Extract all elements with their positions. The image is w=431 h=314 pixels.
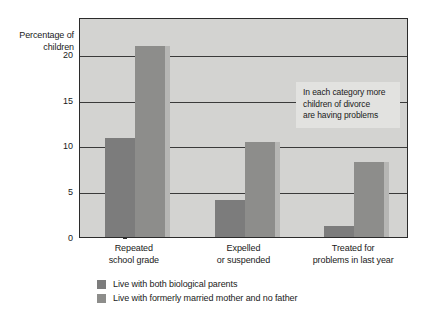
legend: Live with both biological parents Live w… <box>97 277 397 305</box>
legend-item-1: Live with formerly married mother and no… <box>97 291 397 305</box>
x-axis-label-1-line-1: or suspended <box>189 254 299 266</box>
legend-swatch-icon-1 <box>97 294 106 303</box>
y-tick-label-5: 5 <box>49 187 73 197</box>
x-axis-label-1-line-0: Expelled <box>189 242 299 254</box>
annotation-line-1: In each category more <box>303 87 394 99</box>
bar-1-0 <box>215 200 245 237</box>
annotation-line-3: are having problems <box>303 110 394 122</box>
x-axis-label-1: Expelledor suspended <box>189 242 299 266</box>
annotation-line-2: children of divorce <box>303 99 394 111</box>
bar-2-1 <box>354 162 384 237</box>
x-axis-label-0: Repeatedschool grade <box>79 242 189 266</box>
x-axis-label-0-line-1: school grade <box>79 254 189 266</box>
y-axis-ticks: 05101520 <box>47 18 73 238</box>
y-tick-label-15: 15 <box>49 96 73 106</box>
bar-0-1 <box>135 46 165 237</box>
legend-label-0: Live with both biological parents <box>113 279 237 289</box>
bar-1-1 <box>245 142 275 237</box>
annotation-callout: In each category more children of divorc… <box>296 82 400 128</box>
x-axis-label-2-line-1: problems in last year <box>298 254 408 266</box>
plot-inner <box>80 19 407 237</box>
gridline-20 <box>80 56 407 57</box>
y-tick-label-20: 20 <box>49 50 73 60</box>
legend-label-1: Live with formerly married mother and no… <box>113 293 297 303</box>
bar-0-0 <box>105 138 135 237</box>
legend-swatch-icon-0 <box>97 280 106 289</box>
y-tick-label-0: 0 <box>49 233 73 243</box>
plot-area <box>79 18 408 238</box>
bar-2-0 <box>324 226 354 237</box>
bar-chart: Percentage of children 05101520 In each … <box>0 0 431 314</box>
x-axis-labels: Repeatedschool gradeExpelledor suspended… <box>79 242 408 276</box>
y-tick-label-10: 10 <box>49 141 73 151</box>
legend-item-0: Live with both biological parents <box>97 277 397 291</box>
x-axis-label-0-line-0: Repeated <box>79 242 189 254</box>
x-axis-label-2-line-0: Treated for <box>298 242 408 254</box>
x-axis-label-2: Treated forproblems in last year <box>298 242 408 266</box>
y-tick-mark-0 <box>123 238 127 239</box>
